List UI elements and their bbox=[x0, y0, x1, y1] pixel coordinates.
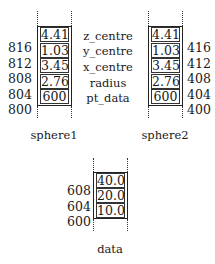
address-label: 416 bbox=[187, 41, 211, 54]
address-label: 408 bbox=[187, 72, 211, 85]
memory-cell: 2.76 bbox=[151, 74, 180, 89]
rail-top-left bbox=[93, 158, 94, 172]
struct-caption: data bbox=[80, 243, 140, 255]
memory-cell: 3.45 bbox=[40, 58, 69, 73]
rail-bottom-right bbox=[182, 106, 183, 118]
address-label: 604 bbox=[67, 200, 91, 213]
address-label: 812 bbox=[8, 57, 32, 70]
rail-bottom-right bbox=[71, 106, 72, 118]
memory-cell: 4.41 bbox=[151, 27, 180, 42]
rail-bottom-left bbox=[37, 106, 38, 118]
rail-right bbox=[127, 172, 128, 219]
address-label: 808 bbox=[8, 72, 32, 85]
rail-left bbox=[93, 172, 94, 219]
memory-cell: 1.03 bbox=[151, 43, 180, 58]
address-label: 816 bbox=[8, 41, 32, 54]
rail-right bbox=[182, 26, 183, 106]
rail-top-right bbox=[71, 11, 72, 26]
address-label: 800 bbox=[8, 103, 32, 116]
rail-bottom-left bbox=[148, 106, 149, 118]
rail-bottom-right bbox=[127, 219, 128, 231]
rail-left bbox=[37, 26, 38, 106]
memory-cell: 20.0 bbox=[96, 188, 125, 203]
field-label: y_centre bbox=[68, 45, 148, 57]
struct-caption: sphere1 bbox=[24, 129, 84, 141]
memory-cell: 1.03 bbox=[40, 43, 69, 58]
field-label: pt_data bbox=[68, 92, 148, 104]
rail-top-right bbox=[182, 11, 183, 26]
memory-cell: 600 bbox=[151, 89, 180, 104]
memory-cell: 10.0 bbox=[96, 203, 125, 218]
address-label: 400 bbox=[187, 103, 211, 116]
rail-top-left bbox=[148, 11, 149, 26]
memory-cell: 600 bbox=[40, 89, 69, 104]
field-label: x_centre bbox=[68, 61, 148, 73]
address-label: 600 bbox=[67, 215, 91, 228]
struct-caption: sphere2 bbox=[135, 129, 195, 141]
memory-cell: 40.0 bbox=[96, 173, 125, 188]
rail-bottom-left bbox=[93, 219, 94, 231]
field-label: radius bbox=[68, 77, 148, 89]
bottom-line bbox=[148, 105, 183, 106]
address-label: 404 bbox=[187, 88, 211, 101]
memory-cell: 2.76 bbox=[40, 74, 69, 89]
bottom-line bbox=[37, 105, 72, 106]
address-label: 412 bbox=[187, 57, 211, 70]
address-label: 608 bbox=[67, 184, 91, 197]
rail-top-right bbox=[127, 158, 128, 172]
memory-cell: 3.45 bbox=[151, 58, 180, 73]
bottom-line bbox=[93, 218, 128, 219]
address-label: 804 bbox=[8, 88, 32, 101]
rail-left bbox=[148, 26, 149, 106]
rail-top-left bbox=[37, 11, 38, 26]
field-label: z_centre bbox=[68, 30, 148, 42]
memory-cell: 4.41 bbox=[40, 27, 69, 42]
